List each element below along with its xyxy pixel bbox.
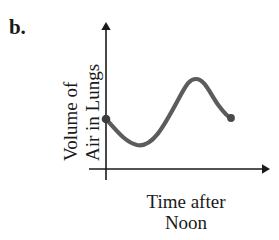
figure-container: b. Volume of Air in Lungs Time after Noo… [0, 0, 279, 240]
x-axis-arrowhead [262, 164, 270, 174]
x-axis-label-line-2: Noon [104, 212, 268, 233]
start-point-marker [102, 115, 111, 124]
y-axis-arrowhead [101, 22, 110, 30]
x-axis-label: Time after Noon [104, 191, 268, 233]
x-axis-label-line-1: Time after [104, 191, 268, 212]
end-point-marker [227, 114, 235, 122]
data-curve [106, 79, 231, 145]
